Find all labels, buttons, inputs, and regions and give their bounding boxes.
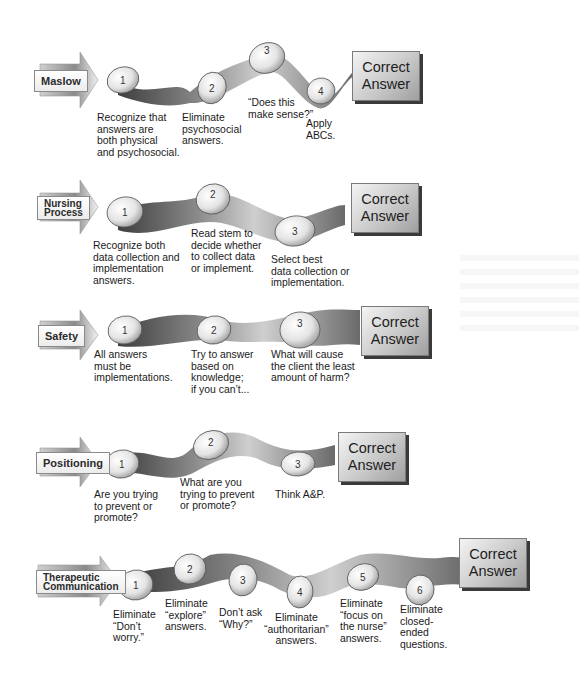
svg-text:2: 2 [210,189,216,200]
step-label-1: Eliminate “Don’t worry.” [113,609,156,644]
correct-answer-box: Correct Answer [351,183,419,233]
step-label-3: “Does this make sense?” [248,97,313,120]
svg-text:4: 4 [297,587,303,598]
flow-row-therapeutic-communication: 1 2 3 4 5 6 Therapeutic Communication Co… [0,520,579,687]
svg-text:3: 3 [297,318,303,329]
svg-text:3: 3 [240,575,246,586]
svg-text:2: 2 [187,564,193,575]
step-label-2: Try to answer based on knowledge; if you… [191,349,254,395]
category-tag-nursing-process: Nursing Process [37,196,90,220]
correct-answer-box: Correct Answer [352,51,420,101]
answer-text-line1: Correct [362,59,410,76]
flow-row-maslow: 1 2 3 4 Maslow Correct Answer Recognize … [0,0,579,150]
svg-text:1: 1 [133,580,139,591]
answer-text-line2: Answer [362,76,410,93]
step-label-4: Eliminate “authoritarian” answers. [264,612,329,647]
category-tag-safety: Safety [38,325,85,347]
correct-answer-box: Correct Answer [459,538,527,588]
answer-text-line1: Correct [361,191,409,208]
svg-text:3: 3 [295,459,301,470]
step-label-1: Recognize both data collection and imple… [93,240,180,286]
flow-row-safety: 1 2 3 Safety Correct Answer All answers … [0,290,579,410]
step-label-2: Read stem to decide whether to collect d… [191,228,261,274]
category-tag-positioning: Positioning [36,452,110,474]
step-label-5: Eliminate “focus on the nurse” answers. [340,598,387,644]
step-label-2: What are you trying to prevent or promot… [180,477,255,512]
svg-text:2: 2 [209,83,215,94]
step-label-6: Eliminate closed- ended questions. [400,604,447,650]
flow-row-positioning: 1 2 3 Positioning Correct Answer Are you… [0,410,579,520]
svg-text:1: 1 [120,75,126,86]
svg-text:1: 1 [122,325,128,336]
answer-text-line1: Correct [348,440,396,457]
svg-text:2: 2 [211,325,217,336]
category-tag-therapeutic-communication: Therapeutic Communication [36,570,126,594]
svg-text:3: 3 [264,45,270,56]
correct-answer-box: Correct Answer [361,306,429,356]
svg-text:1: 1 [122,207,128,218]
svg-text:4: 4 [318,86,324,97]
step-label-2: Eliminate “explore” answers. [165,598,208,633]
correct-answer-box: Correct Answer [338,432,406,482]
svg-text:1: 1 [119,459,125,470]
answer-text-line2: Answer [371,331,419,348]
tag-text-line2: Communication [43,582,119,591]
step-label-3: Select best data collection or implement… [271,254,350,289]
step-label-3: Think A&P. [275,489,325,501]
svg-text:6: 6 [417,585,423,596]
answer-text-line1: Correct [469,546,517,563]
tag-text-line2: Process [44,208,83,217]
answer-text-line2: Answer [348,457,396,474]
step-label-1: Are you trying to prevent or promote? [94,489,158,524]
flow-row-nursing-process: 1 2 3 Nursing Process Correct Answer Rec… [0,150,579,290]
answer-text-line1: Correct [371,314,419,331]
category-tag-maslow: Maslow [34,70,88,92]
step-label-4: Apply ABCs. [306,118,335,141]
answer-text-line2: Answer [469,563,517,580]
answer-text-line2: Answer [361,208,409,225]
svg-text:3: 3 [292,226,298,237]
step-label-1: All answers must be implementations. [94,349,173,384]
step-label-3: Don’t ask “Why?” [219,607,262,630]
svg-text:2: 2 [208,437,214,448]
step-label-3: What will cause the client the least amo… [271,349,355,384]
step-label-2: Eliminate psychosocial answers. [182,112,242,147]
svg-text:5: 5 [360,572,366,583]
